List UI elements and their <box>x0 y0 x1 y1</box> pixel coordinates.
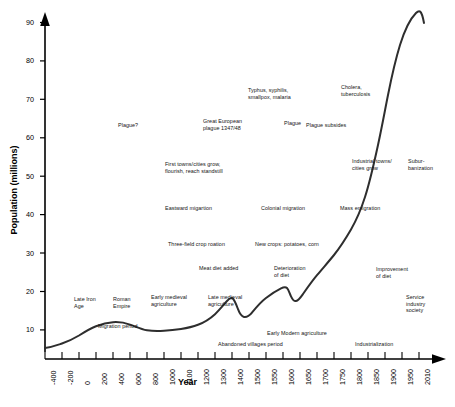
annotation-great-european-plague: Great European plague 1347/48 <box>203 118 242 131</box>
annotation-cholera-tuberculosis: Cholera, tuberculosis <box>341 84 370 97</box>
annotation-industrial-towns: Industrial towns/ cities grow <box>352 158 392 171</box>
x-tick-label: 1800 <box>355 369 364 385</box>
y-tick-label: 30 <box>12 249 34 258</box>
population-chart-figure: Population (millions) 90 80 70 60 50 40 … <box>0 0 455 407</box>
annotation-suburbanization: Subur- banization <box>408 158 433 171</box>
annotation-first-towns-cities: First towns/cities grow, flourish, reach… <box>165 161 223 174</box>
annotation-eastward-migration: Eastward migartion <box>165 205 212 212</box>
x-tick-label: 1950 <box>406 369 415 385</box>
y-tick-label: 60 <box>12 133 34 142</box>
annotation-typhus-syphilis: Typhus, syphilis, smallpox, malaria <box>248 87 291 100</box>
x-tick-label: 1600 <box>287 369 296 385</box>
annotation-three-field-crop-rotation: Three-field crop roation <box>168 241 225 248</box>
x-tick-label: 1850 <box>372 369 381 385</box>
x-axis <box>45 352 446 364</box>
x-tick-label: 1000 <box>168 369 177 385</box>
x-tick-label: -400 <box>49 371 58 385</box>
x-axis-label: Year <box>178 377 197 387</box>
x-tick-label: 1300 <box>219 369 228 385</box>
annotation-industrialization: Industrialization <box>355 341 393 348</box>
x-tick-label: -200 <box>66 371 75 385</box>
y-tick-label: 80 <box>12 56 34 65</box>
x-tick-label: 1550 <box>270 369 279 385</box>
y-tick-label: 90 <box>12 18 34 27</box>
figure-caption <box>14 396 444 407</box>
x-tick-label: 200 <box>100 373 109 385</box>
annotation-deterioration-of-diet: Deterioration of diet <box>274 265 306 278</box>
annotation-early-modern-agriculture: Early Modern agriculture <box>267 330 327 337</box>
annotation-plague: Plague <box>284 120 301 127</box>
annotation-new-crops: New crops: potatoes, corn <box>255 241 319 248</box>
annotation-late-iron-age: Late Iron Age <box>74 296 96 309</box>
x-tick-label: 600 <box>134 373 143 385</box>
x-tick-label: 2010 <box>423 369 432 385</box>
x-tick-label: 800 <box>151 373 160 385</box>
y-axis-label: Population (millions) <box>9 130 19 250</box>
x-tick-label: 1750 <box>338 369 347 385</box>
y-tick-label: 10 <box>12 325 34 334</box>
y-tick-label: 50 <box>12 172 34 181</box>
annotation-plague-question: Plague? <box>118 122 138 129</box>
x-tick-label: 1200 <box>202 369 211 385</box>
x-tick-label: 400 <box>117 373 126 385</box>
x-tick-label: 1900 <box>389 369 398 385</box>
annotation-service-industry-society: Service industry society <box>406 294 425 314</box>
x-tick-label: 1500 <box>253 369 262 385</box>
x-tick-label: 1700 <box>321 369 330 385</box>
annotation-roman-empire: Roman Empire <box>113 296 131 309</box>
annotation-abandoned-villages-period: Abandoned villages period <box>218 341 283 348</box>
y-axis <box>40 12 50 352</box>
y-tick-label: 20 <box>12 287 34 296</box>
y-tick-label: 70 <box>12 95 34 104</box>
x-tick-label: 1400 <box>236 369 245 385</box>
annotation-meat-diet-added: Meat diet added <box>199 265 238 272</box>
annotation-plague-subsides: Plague subsides <box>306 122 346 129</box>
y-tick-label: 40 <box>12 210 34 219</box>
annotation-mass-emigration: Mass emigration <box>340 205 380 212</box>
x-tick-label: 0 <box>83 381 92 385</box>
x-tick-label: 1650 <box>304 369 313 385</box>
annotation-late-medieval-agriculture: Late medieval agriculture <box>208 294 242 307</box>
annotation-early-medieval-agriculture: Early medieval agriculture <box>151 294 187 307</box>
annotation-improvement-of-diet: Improvement of diet <box>376 266 408 279</box>
annotation-colonial-migration: Colonial migration <box>261 205 305 212</box>
annotation-migration-period: Migration period <box>98 323 137 330</box>
